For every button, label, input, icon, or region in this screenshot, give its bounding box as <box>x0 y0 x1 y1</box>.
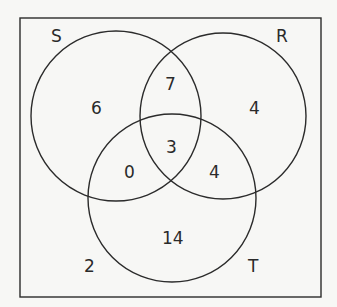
region-outside: 2 <box>84 256 95 276</box>
set-s-label: S <box>51 26 62 46</box>
set-s-circle <box>31 31 201 201</box>
region-r-and-t: 4 <box>209 162 220 182</box>
region-s-and-t: 0 <box>124 162 135 182</box>
region-s-only: 6 <box>91 98 102 118</box>
region-r-only: 4 <box>249 98 260 118</box>
region-s-r-t: 3 <box>166 137 177 157</box>
set-r-circle <box>140 33 306 199</box>
universal-set-box <box>20 18 321 297</box>
region-t-only: 14 <box>162 228 184 248</box>
set-t-label: T <box>247 256 259 276</box>
set-r-label: R <box>276 26 288 46</box>
venn-diagram: S R T 6 4 7 3 0 4 14 2 <box>0 0 337 307</box>
region-s-and-r: 7 <box>165 74 176 94</box>
